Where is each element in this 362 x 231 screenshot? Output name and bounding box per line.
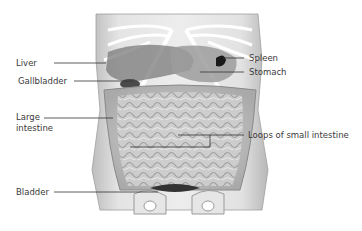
label-stomach: Stomach xyxy=(249,67,286,77)
label-gallbladder: Gallbladder xyxy=(18,76,67,86)
label-spleen: Spleen xyxy=(249,53,278,63)
label-liver: Liver xyxy=(16,58,37,68)
small-intestine xyxy=(117,92,243,186)
label-small-intestine: Loops of small intestine xyxy=(248,130,349,140)
label-large-intestine-line1: Large xyxy=(16,112,40,122)
anatomy-illustration xyxy=(0,0,362,231)
label-large-intestine-line2: intestine xyxy=(16,123,53,133)
label-bladder: Bladder xyxy=(16,187,49,197)
